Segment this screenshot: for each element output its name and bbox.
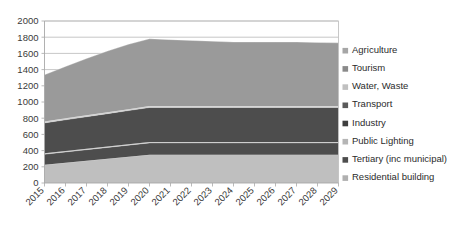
legend-swatch	[343, 157, 349, 163]
y-tick-label: 1000	[17, 96, 38, 107]
legend-swatch	[343, 139, 349, 145]
legend-label: Residential building	[352, 171, 434, 182]
legend-swatch	[343, 84, 349, 90]
y-tick-label: 1200	[17, 80, 38, 91]
legend-label: Tourism	[352, 62, 385, 73]
stacked-area-chart: 0200400600800100012001400160018002000 20…	[0, 0, 464, 232]
legend-swatch	[343, 103, 349, 109]
y-tick-label: 2000	[17, 15, 38, 26]
y-tick-label: 200	[23, 161, 39, 172]
legend-swatch	[343, 121, 349, 127]
legend-swatch	[343, 175, 349, 181]
y-tick-label: 600	[23, 129, 39, 140]
y-tick-label: 800	[23, 113, 39, 124]
legend-label: Public Lighting	[352, 135, 414, 146]
legend-label: Industry	[352, 117, 386, 128]
legend-swatch	[343, 66, 349, 72]
y-tick-label: 1600	[17, 48, 38, 59]
legend-swatch	[343, 48, 349, 54]
y-tick-label: 1400	[17, 64, 38, 75]
y-tick-label: 400	[23, 145, 39, 156]
legend-label: Agriculture	[352, 44, 397, 55]
legend-label: Transport	[352, 98, 393, 109]
legend-label: Tertiary (inc municipal)	[352, 153, 447, 164]
area-bands	[45, 39, 339, 183]
legend-label: Water, Waste	[352, 80, 408, 91]
chart-canvas: 0200400600800100012001400160018002000 20…	[0, 0, 464, 232]
y-tick-label: 1800	[17, 32, 38, 43]
